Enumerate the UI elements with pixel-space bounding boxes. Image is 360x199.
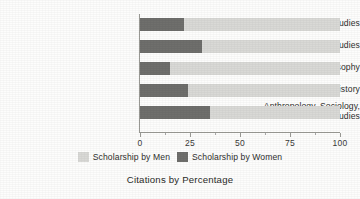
bar-segment-men: [188, 84, 340, 97]
bar-segment-men: [170, 62, 340, 75]
x-tick-label-0: 0: [138, 138, 143, 148]
legend-swatch-men: [78, 152, 89, 162]
bar-segment-women: [140, 18, 184, 31]
x-tick-label-75: 75: [285, 138, 295, 148]
x-tick-minor-1: [165, 133, 166, 135]
x-tick-75: [290, 133, 291, 137]
x-axis-title: Citations by Percentage: [0, 174, 360, 185]
legend-item-men: Scholarship by Men: [78, 152, 170, 162]
x-tick-minor-4: [315, 133, 316, 135]
x-tick-25: [190, 133, 191, 137]
bar-segment-women: [140, 62, 170, 75]
x-tick-label-100: 100: [333, 138, 348, 148]
legend-swatch-women: [177, 152, 188, 162]
citations-bar-chart: Textual Studies Literary Studies Jewish …: [0, 0, 360, 199]
bar-segment-men: [202, 40, 340, 53]
x-tick-50: [240, 133, 241, 137]
legend-label-women: Scholarship by Women: [192, 152, 282, 162]
bar-segment-women: [140, 106, 210, 119]
x-tick-0: [140, 133, 141, 137]
x-tick-label-25: 25: [185, 138, 195, 148]
bar-segment-men: [210, 106, 340, 119]
plot-area: [140, 14, 340, 132]
bar-segment-women: [140, 40, 202, 53]
x-tick-minor-2: [215, 133, 216, 135]
bar-segment-men: [184, 18, 340, 31]
legend-item-women: Scholarship by Women: [177, 152, 282, 162]
x-tick-100: [340, 133, 341, 137]
bar-row-literary-studies: [140, 40, 340, 53]
legend-label-men: Scholarship by Men: [93, 152, 170, 162]
bar-row-history: [140, 84, 340, 97]
bar-row-textual-studies: [140, 18, 340, 31]
bar-row-jewish-thought-and-philosophy: [140, 62, 340, 75]
x-tick-minor-3: [265, 133, 266, 135]
x-tick-label-50: 50: [235, 138, 245, 148]
chart-legend: Scholarship by Men Scholarship by Women: [0, 152, 360, 162]
bar-row-anthropology-sociology-or-cultural-studies: [140, 106, 340, 119]
bar-segment-women: [140, 84, 188, 97]
